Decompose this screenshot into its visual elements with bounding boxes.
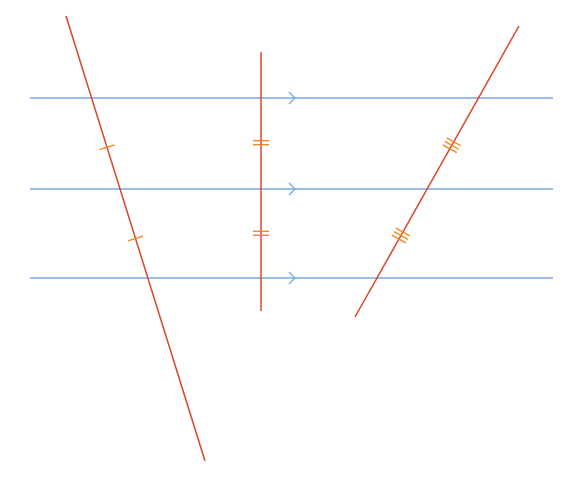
parallel-line-3: [30, 272, 553, 284]
transversals-group: [66, 16, 519, 461]
parallel-line-1: [30, 92, 553, 104]
parallel-lines-transversals-diagram: [0, 0, 572, 497]
equal-segment-tick-mark: [443, 138, 461, 153]
transversal-1: [66, 16, 205, 461]
diagram-canvas: [0, 0, 572, 497]
transversal-3: [355, 26, 519, 317]
transversal-2: [253, 52, 269, 311]
parallel-lines-group: [30, 92, 553, 284]
transversal-stroke: [355, 26, 519, 317]
equal-segment-tick-mark: [392, 228, 410, 243]
parallel-line-2: [30, 183, 553, 195]
